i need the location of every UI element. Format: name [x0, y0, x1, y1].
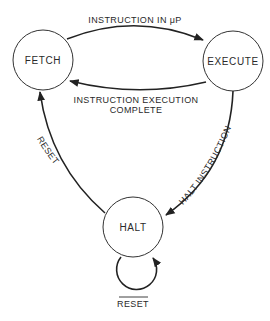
- edge-label-instruction-execution: INSTRUCTION EXECUTION: [74, 95, 199, 105]
- state-halt-label: HALT: [119, 222, 146, 233]
- edge-execute-to-halt: [166, 91, 233, 215]
- state-fetch-label: FETCH: [25, 55, 61, 66]
- state-execute-label: EXECUTE: [207, 56, 258, 67]
- state-fetch: FETCH: [13, 30, 73, 90]
- state-halt: HALT: [103, 197, 163, 257]
- edge-label-complete: COMPLETE: [110, 105, 163, 115]
- edge-label-reset-not: RESET: [117, 299, 149, 309]
- edge-label-instruction-in-up: INSTRUCTION IN μP: [88, 15, 182, 25]
- edge-label-halt-instruction: HALT INSTRUCTION: [177, 124, 233, 207]
- state-execute: EXECUTE: [203, 31, 263, 91]
- edge-fetch-to-execute: [67, 26, 203, 40]
- state-diagram: INSTRUCTION IN μP INSTRUCTION EXECUTION …: [0, 0, 270, 321]
- edge-halt-self-loop: [117, 257, 157, 289]
- edge-execute-to-fetch: [70, 81, 206, 90]
